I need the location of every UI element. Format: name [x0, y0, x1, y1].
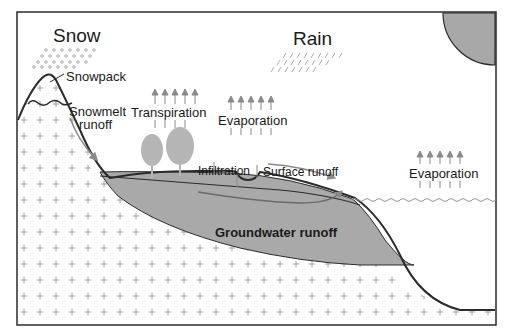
- snow-label: Snow: [53, 25, 101, 46]
- surface-runoff-label: Surface runoff: [263, 165, 339, 179]
- water-cycle-diagram: Snow Rain Snowpack Snowmelt runoff Trans…: [0, 0, 507, 335]
- rain-label: Rain: [293, 28, 332, 49]
- snowpack-label: Snowpack: [66, 69, 126, 84]
- evaporation-land-label: Evaporation: [218, 113, 287, 128]
- groundwater-runoff-label: Groundwater runoff: [215, 225, 338, 240]
- transpiration-label: Transpiration: [131, 105, 206, 120]
- evaporation-sea-label: Evaporation: [409, 166, 478, 181]
- infiltration-label: Infiltration: [198, 164, 250, 178]
- snowmelt-label-line2: runoff: [79, 117, 112, 132]
